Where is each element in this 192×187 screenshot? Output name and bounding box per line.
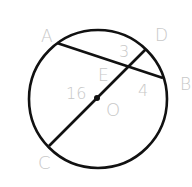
center-point-o (94, 95, 100, 101)
circle-diagram: A D 3 E B 16 4 O C (0, 0, 192, 187)
label-segment-de: 3 (119, 42, 129, 61)
chord-ab (57, 43, 163, 78)
label-b: B (180, 74, 191, 94)
label-d: D (155, 25, 168, 45)
label-o: O (106, 99, 120, 120)
label-e: E (98, 65, 109, 85)
label-segment-radius: 16 (66, 84, 86, 103)
label-a: A (41, 26, 53, 46)
label-c: C (38, 152, 51, 173)
label-segment-eb: 4 (138, 81, 148, 100)
